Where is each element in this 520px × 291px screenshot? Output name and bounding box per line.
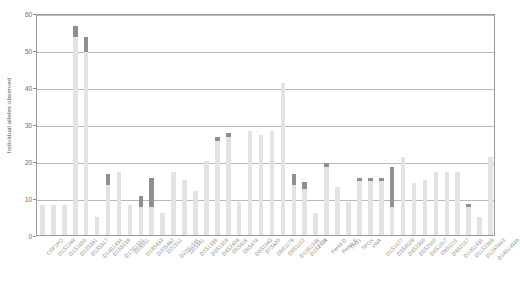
bar [379,15,384,235]
bar-segment-lower [477,217,482,236]
bar-segment-upper [226,133,231,137]
bar-segment-lower [357,180,362,236]
bar-segment-upper [73,26,78,37]
bar [139,15,144,235]
y-tick-label-30: 30 [10,122,32,129]
bar-segment-upper [357,178,362,182]
bar-segment-lower [84,50,89,235]
bar [445,15,450,235]
bars-group [37,15,494,235]
bar-segment-lower [237,202,242,235]
bar-segment-lower [62,205,67,235]
bar-segment-lower [259,135,264,235]
bar [40,15,45,235]
bar-segment-lower [313,213,318,235]
bar-segment-lower [455,172,460,235]
bar [171,15,176,235]
bar-segment-upper [324,163,329,167]
bar-segment-lower [106,183,111,235]
y-tick-label-60: 60 [10,11,32,18]
bar-segment-lower [40,205,45,235]
bar-segment-lower [226,135,231,235]
bar [302,15,307,235]
bar-segment-lower [401,157,406,235]
bar-segment-lower [117,172,122,235]
bar [128,15,133,235]
bar [95,15,100,235]
bar [160,15,165,235]
bar [281,15,286,235]
bar-segment-upper [215,137,220,141]
bar [466,15,471,235]
bar [73,15,78,235]
bar [248,15,253,235]
bar-segment-lower [488,157,493,235]
bar [357,15,362,235]
bar [84,15,89,235]
bar [401,15,406,235]
bar [149,15,154,235]
bar-segment-lower [73,35,78,235]
bar-segment-upper [466,204,471,208]
bar [193,15,198,235]
bar [226,15,231,235]
y-tick-label-10: 10 [10,196,32,203]
bar-segment-lower [215,139,220,235]
bar-segment-lower [379,180,384,236]
bar [324,15,329,235]
bar-segment-lower [139,205,144,235]
bar [335,15,340,235]
bar-segment-lower [335,187,340,235]
bar [237,15,242,235]
bar-segment-upper [149,178,154,208]
y-tick-label-50: 50 [10,48,32,55]
bar [182,15,187,235]
bar-segment-lower [51,205,56,235]
bar-segment-lower [193,191,198,235]
bar-segment-lower [292,183,297,235]
bar [368,15,373,235]
bar [270,15,275,235]
bar-segment-lower [412,183,417,235]
bar [215,15,220,235]
bar-segment-lower [182,180,187,236]
bar-segment-lower [434,172,439,235]
bar [62,15,67,235]
bar-segment-upper [302,182,307,189]
bar [412,15,417,235]
bar-segment-lower [423,180,428,236]
bar-segment-lower [390,205,395,235]
bar [455,15,460,235]
bar-segment-lower [281,83,286,235]
bar [477,15,482,235]
bar-segment-lower [346,202,351,235]
bar-segment-lower [466,205,471,235]
x-axis-labels: CSF1POD1S1248D1S1656D12S391D13S317D14S14… [36,237,495,291]
bar-segment-lower [270,131,275,235]
bar [117,15,122,235]
bar-segment-lower [248,131,253,235]
bar-segment-lower [368,180,373,236]
bar [488,15,493,235]
bar-segment-upper [106,174,111,185]
bar [292,15,297,235]
plot-area [36,14,495,236]
bar-segment-lower [171,172,176,235]
bar [51,15,56,235]
bar-segment-lower [302,187,307,235]
bar-segment-upper [379,178,384,182]
bar-segment-upper [390,167,395,208]
bar [423,15,428,235]
bar-segment-upper [292,174,297,185]
bar-segment-lower [204,161,209,235]
bar-segment-upper [84,37,89,52]
bar [106,15,111,235]
y-tick-label-40: 40 [10,85,32,92]
bar-segment-lower [445,172,450,235]
bar [204,15,209,235]
bar [259,15,264,235]
bar-segment-lower [324,165,329,235]
bar [434,15,439,235]
bar [313,15,318,235]
